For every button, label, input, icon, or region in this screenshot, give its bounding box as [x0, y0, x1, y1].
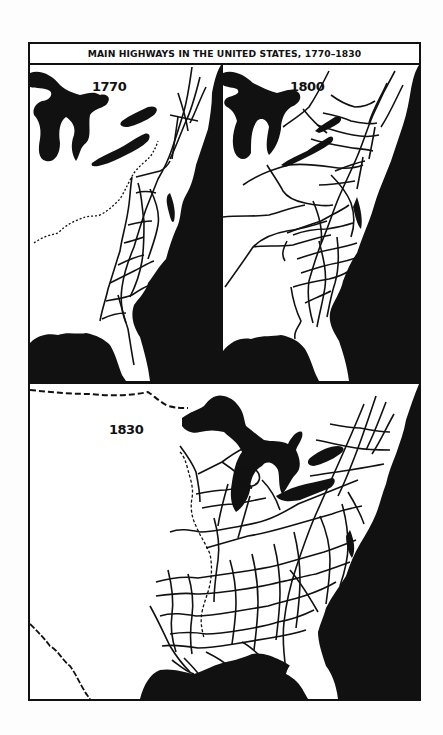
map-1800-graphic [223, 65, 419, 381]
map-frame: MAIN HIGHWAYS IN THE UNITED STATES, 1770… [28, 42, 421, 701]
northern-boundary-dashed-line [30, 390, 188, 408]
southwest-boundary-dashed-line [30, 624, 90, 699]
year-label-1830: 1830 [109, 422, 143, 437]
lake-erie-shape [281, 136, 333, 167]
lake-erie-shape [92, 133, 150, 166]
year-label-1800: 1800 [290, 79, 324, 94]
year-label-1770: 1770 [92, 79, 126, 94]
map-1830-graphic [30, 384, 419, 699]
chesapeake-bay-shape [167, 193, 175, 222]
map-title: MAIN HIGHWAYS IN THE UNITED STATES, 1770… [30, 44, 419, 65]
map-panel-1770: 1770 [30, 65, 223, 381]
map-1770-graphic [30, 65, 221, 381]
great-lakes-shape [223, 72, 300, 159]
mississippi-river-dashed-line [180, 452, 212, 638]
gulf-of-mexico-shape [223, 335, 319, 381]
lake-ontario-shape [120, 106, 156, 127]
gulf-of-mexico-shape [30, 333, 126, 381]
map-panel-1800: 1800 [223, 65, 419, 381]
map-panel-1830: 1830 [30, 384, 419, 699]
atlantic-ocean-shape [318, 384, 419, 699]
